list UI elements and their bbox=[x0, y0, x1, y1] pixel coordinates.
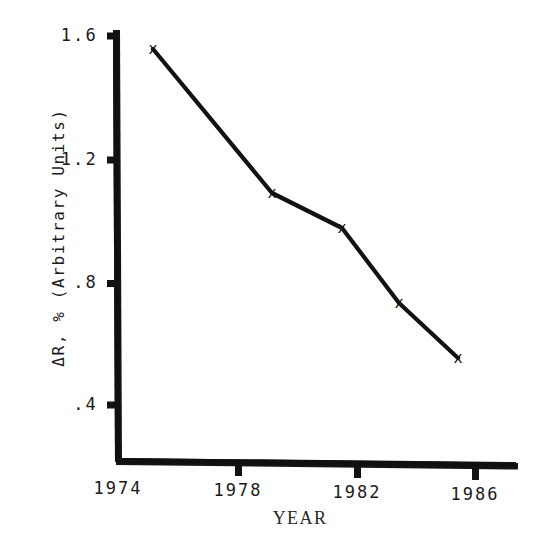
x-tick-label-4: 1986 bbox=[430, 484, 520, 504]
data-point-marker: x bbox=[267, 184, 276, 202]
axis-lines bbox=[116, 30, 519, 466]
x-tick-label-1: 1974 bbox=[73, 478, 163, 498]
x-axis-title: YEAR bbox=[240, 508, 360, 529]
figure-canvas: x x x x x 1.6 1.2 .8 .4 1974 1978 1982 1… bbox=[0, 0, 538, 545]
y-tick-label-4: .4 bbox=[28, 394, 98, 414]
line-chart: x x x x x 1.6 1.2 .8 .4 1974 1978 1982 1… bbox=[0, 0, 538, 545]
x-tick-label-3: 1982 bbox=[312, 482, 402, 502]
data-point-marker: x bbox=[453, 349, 462, 367]
data-point-marker: x bbox=[337, 219, 346, 237]
y-tick-label-1: 1.6 bbox=[28, 25, 98, 45]
x-tick-label-2: 1978 bbox=[193, 480, 283, 500]
data-point-marker: x bbox=[148, 40, 157, 58]
data-point-marker: x bbox=[394, 294, 403, 312]
data-series-line bbox=[153, 49, 458, 358]
y-axis-title: ΔR, % (Arbitrary Units) bbox=[49, 88, 68, 388]
